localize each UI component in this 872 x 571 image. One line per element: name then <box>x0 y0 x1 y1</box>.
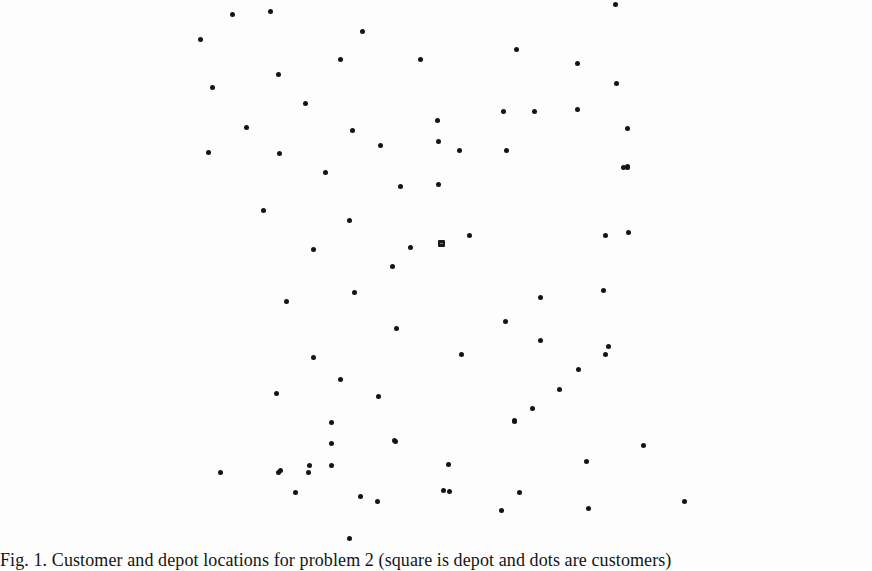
customer-dot <box>329 420 334 425</box>
customer-dot <box>532 109 537 114</box>
customer-dot <box>338 377 343 382</box>
customer-dot <box>625 126 630 131</box>
customer-dot <box>360 29 365 34</box>
customer-dot <box>641 443 646 448</box>
customer-dot <box>606 344 611 349</box>
customer-dot <box>329 441 334 446</box>
customer-dot <box>557 387 562 392</box>
customer-dot <box>323 170 328 175</box>
customer-dot <box>603 233 608 238</box>
customer-dot <box>278 468 283 473</box>
customer-dot <box>350 128 355 133</box>
customer-dot <box>576 367 581 372</box>
customer-dot <box>347 536 352 541</box>
customer-dot <box>601 288 606 293</box>
customer-dot <box>268 9 273 14</box>
customer-dot <box>206 150 211 155</box>
customer-dot <box>393 439 398 444</box>
customer-dot <box>682 499 687 504</box>
scatter-plot <box>0 0 872 548</box>
customer-dot <box>390 264 395 269</box>
customer-dot <box>376 394 381 399</box>
customer-dot <box>575 107 580 112</box>
customer-dot <box>230 12 235 17</box>
customer-dot <box>447 489 452 494</box>
figure-1 <box>0 0 872 548</box>
customer-dot <box>276 72 281 77</box>
customer-dot <box>586 506 591 511</box>
customer-dot <box>358 494 363 499</box>
customer-dot <box>626 230 631 235</box>
customer-dot <box>394 326 399 331</box>
customer-dot <box>329 463 334 468</box>
customer-dot <box>441 488 446 493</box>
customer-dot <box>274 391 279 396</box>
customer-dot <box>198 37 203 42</box>
customer-dot <box>244 125 249 130</box>
customer-dot <box>459 352 464 357</box>
customer-dot <box>398 184 403 189</box>
customer-dot <box>306 470 311 475</box>
customer-dot <box>625 165 630 170</box>
customer-dot <box>307 463 312 468</box>
customer-dot <box>293 490 298 495</box>
customer-dot <box>614 81 619 86</box>
customer-dot <box>538 338 543 343</box>
customer-dot <box>499 508 504 513</box>
customer-dot <box>311 355 316 360</box>
customer-dot <box>457 148 462 153</box>
customer-dot <box>210 85 215 90</box>
customer-dot <box>303 101 308 106</box>
customer-dot <box>467 233 472 238</box>
depot-marker <box>438 240 445 247</box>
customer-dot <box>436 182 441 187</box>
customer-dot <box>435 118 440 123</box>
customer-dot <box>538 295 543 300</box>
customer-dot <box>436 139 441 144</box>
customer-dot <box>501 109 506 114</box>
customer-dot <box>613 2 618 7</box>
customer-dot <box>277 151 282 156</box>
customer-dot <box>503 319 508 324</box>
figure-caption: Fig. 1. Customer and depot locations for… <box>0 549 872 571</box>
customer-dot <box>603 352 608 357</box>
customer-dot <box>514 47 519 52</box>
customer-dot <box>584 459 589 464</box>
customer-dot <box>352 290 357 295</box>
customer-dot <box>446 462 451 467</box>
customer-dot <box>418 57 423 62</box>
customer-dot <box>512 418 517 423</box>
customer-dot <box>375 499 380 504</box>
customer-dot <box>575 61 580 66</box>
customer-dot <box>261 208 266 213</box>
customer-dot <box>530 406 535 411</box>
customer-dot <box>338 57 343 62</box>
customer-dot <box>311 247 316 252</box>
customer-dot <box>347 218 352 223</box>
customer-dot <box>284 299 289 304</box>
customer-dot <box>218 470 223 475</box>
customer-dot <box>504 148 509 153</box>
customer-dot <box>408 245 413 250</box>
customer-dot <box>378 143 383 148</box>
customer-dot <box>517 490 522 495</box>
